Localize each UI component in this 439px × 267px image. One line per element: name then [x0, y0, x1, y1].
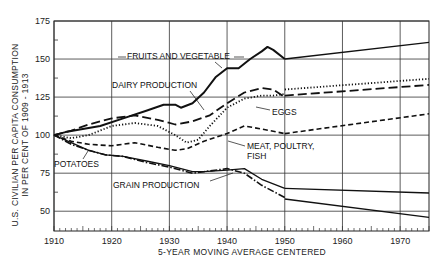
- label-grain: GRAIN PRODUCTION: [113, 180, 199, 190]
- projection-line-meat-poultry-fish: [285, 114, 429, 134]
- y-tick-label: 125: [35, 92, 50, 102]
- series-lines: [54, 42, 429, 217]
- x-tick-label: 1930: [159, 236, 179, 246]
- y-tick-label: 100: [35, 130, 50, 140]
- label-fruits: FRUITS AND VEGETABLE: [127, 51, 230, 61]
- y-axis-title-line-1: U.S. CIVILIAN PER CAPITA CONSUMPTION: [10, 43, 20, 226]
- projection-line-fruits-and-vegetable: [285, 42, 429, 59]
- projection-line-eggs: [285, 79, 429, 90]
- x-tick-label: 1920: [102, 236, 122, 246]
- x-tick-label: 1960: [332, 236, 352, 246]
- projection-line-potatoes: [285, 188, 429, 193]
- y-tick-label: 150: [35, 54, 50, 64]
- label-eggs: EGGS: [272, 107, 297, 117]
- y-tick-label: 175: [35, 16, 50, 26]
- y-tick-label: 75: [40, 168, 50, 178]
- x-tick-label: 1910: [44, 236, 64, 246]
- x-tick-label: 1970: [390, 236, 410, 246]
- x-tick-label: 1950: [275, 236, 295, 246]
- chart: 5075100125150175191019201930194019501960…: [0, 0, 439, 267]
- x-axis-title: 5-YEAR MOVING AVERAGE CENTERED: [158, 247, 326, 257]
- y-tick-label: 50: [40, 206, 50, 216]
- label-dairy: DAIRY PRODUCTION: [112, 80, 197, 90]
- label-meat-line1: MEAT, POULTRY,: [247, 141, 314, 151]
- projection-line-dairy-production: [285, 85, 429, 96]
- label-meat-line2: FISH: [247, 151, 266, 161]
- label-potatoes: POTATOES: [54, 159, 99, 169]
- y-axis-title: U.S. CIVILIAN PER CAPITA CONSUMPTION IN …: [10, 43, 30, 226]
- y-axis-title-line-2: IN PER CENT OF 1909 - 1913: [20, 73, 30, 196]
- projection-line-grain-production: [285, 199, 429, 217]
- x-tick-label: 1940: [217, 236, 237, 246]
